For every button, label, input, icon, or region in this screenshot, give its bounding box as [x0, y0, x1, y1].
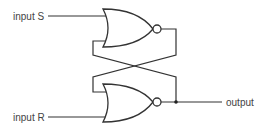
- inverter-bubble-top: [153, 25, 161, 33]
- sr-latch-diagram: input S input R output: [0, 0, 267, 129]
- input-s-label: input S: [13, 11, 44, 22]
- output-label: output: [226, 97, 254, 108]
- nor-gate-top: [103, 9, 153, 47]
- inverter-bubble-bottom: [153, 98, 161, 106]
- junction-dot: [174, 100, 178, 104]
- nor-gate-bottom: [103, 84, 153, 122]
- input-r-label: input R: [13, 112, 45, 123]
